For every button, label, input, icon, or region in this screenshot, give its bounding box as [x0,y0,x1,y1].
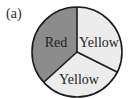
section-label-yellow-right: Yellow [79,35,120,50]
section-label-yellow-bottom: Yellow [59,72,100,87]
section-label-red: Red [45,35,68,50]
spinner-diagram: Red Yellow Yellow [0,0,130,99]
